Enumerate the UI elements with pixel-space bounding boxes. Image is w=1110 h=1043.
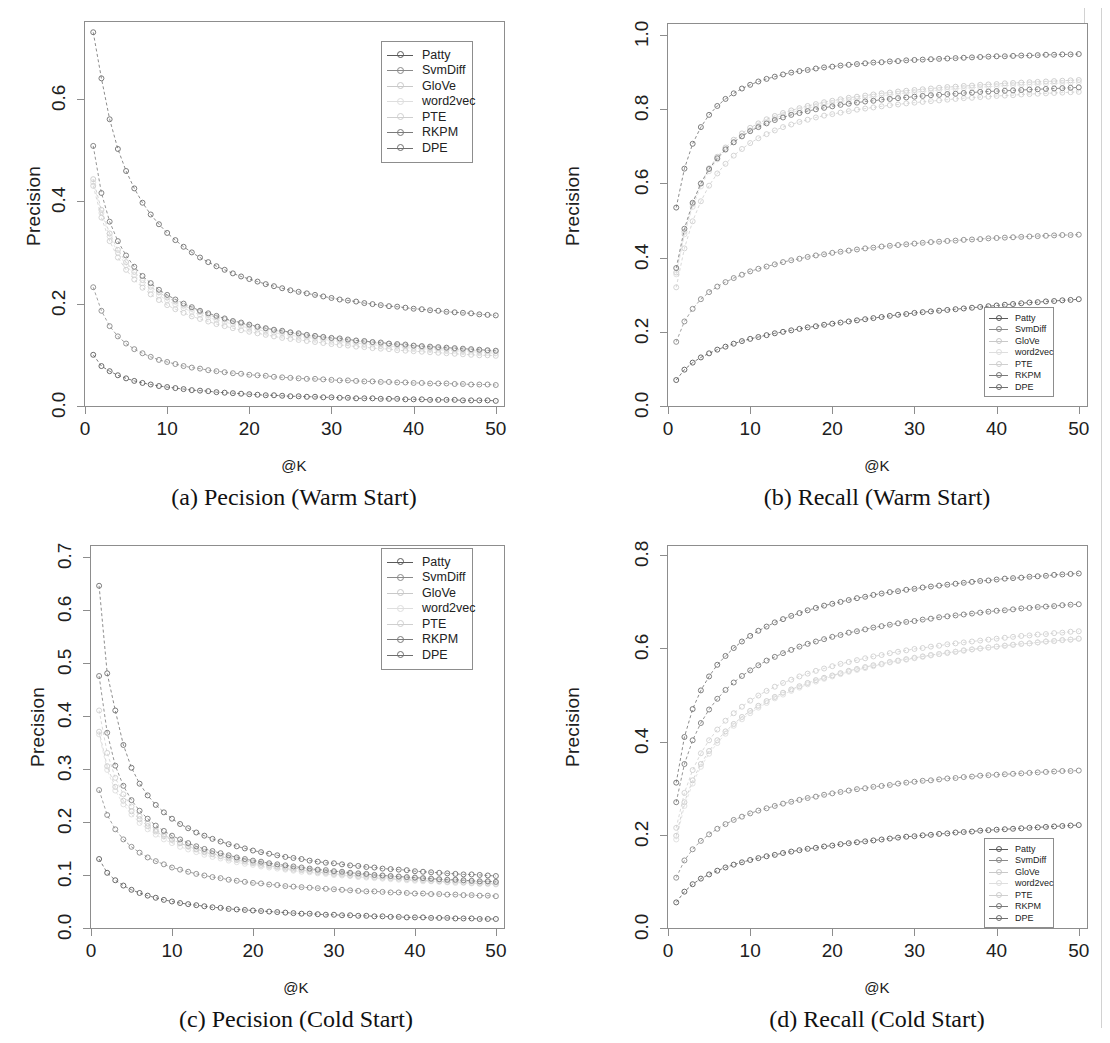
legend-circle-icon: [996, 361, 1002, 367]
legend-marker-icon: [387, 47, 413, 63]
x-tick-mark: [914, 407, 915, 414]
y-tick-mark: [83, 557, 90, 558]
legend-marker-icon: [387, 94, 413, 110]
x-tick-mark: [415, 929, 416, 936]
x-tick-label: 10: [147, 940, 197, 962]
legend-marker-icon: [387, 109, 413, 125]
legend-item[interactable]: RKPM: [989, 901, 1050, 913]
panel-d-legend[interactable]: PattySvmDiffGloVeword2vecPTERKPMDPE: [984, 838, 1054, 928]
legend-label: SvmDiff: [422, 63, 466, 77]
y-tick-mark: [660, 648, 667, 649]
legend-item[interactable]: word2vec: [387, 601, 468, 617]
legend-item[interactable]: PTE: [989, 889, 1050, 901]
legend-item[interactable]: SvmDiff: [387, 570, 468, 586]
x-tick-mark: [91, 929, 92, 936]
y-tick-mark: [660, 406, 667, 407]
legend-label: DPE: [422, 141, 448, 155]
legend-circle-icon: [397, 558, 404, 565]
x-tick-label: 40: [389, 418, 439, 440]
legend-circle-icon: [397, 67, 404, 74]
y-tick-mark: [83, 875, 90, 876]
y-tick-mark: [660, 928, 667, 929]
y-tick-label: 0.4: [48, 189, 70, 213]
panel-d-caption: (d) Recall (Cold Start): [627, 1006, 1110, 1033]
y-tick-mark: [83, 769, 90, 770]
x-tick-mark: [172, 929, 173, 936]
legend-marker-icon: [989, 912, 1008, 924]
legend-label: GloVe: [1015, 336, 1040, 346]
legend-circle-icon: [397, 589, 404, 596]
panel-d-x-axis-title: @K: [827, 979, 927, 996]
y-tick-mark: [83, 928, 90, 929]
legend-circle-icon: [397, 144, 404, 151]
panel-recall-cold-start: Precision 010203040500.00.20.40.60.8 @K …: [555, 521, 1110, 1043]
legend-marker-icon: [387, 63, 413, 79]
panel-c-y-axis-title: Precision: [27, 677, 49, 777]
legend-label: DPE: [422, 648, 448, 662]
y-tick-label: 0.6: [48, 87, 70, 111]
legend-label: PTE: [422, 617, 446, 631]
legend-item[interactable]: RKPM: [989, 370, 1050, 382]
legend-circle-icon: [996, 915, 1002, 921]
legend-item[interactable]: PTE: [387, 109, 468, 125]
panel-a-legend[interactable]: PattySvmDiffGloVeword2vecPTERKPMDPE: [381, 41, 473, 163]
legend-marker-icon: [989, 901, 1008, 913]
legend-item[interactable]: word2vec: [387, 94, 468, 110]
y-tick-mark: [660, 35, 667, 36]
legend-item[interactable]: SvmDiff: [989, 324, 1050, 336]
legend-item[interactable]: SvmDiff: [989, 855, 1050, 867]
legend-circle-icon: [996, 372, 1002, 378]
x-tick-mark: [414, 407, 415, 414]
legend-circle-icon: [397, 129, 404, 136]
legend-item[interactable]: Patty: [989, 312, 1050, 324]
legend-marker-icon: [989, 358, 1008, 370]
y-tick-label: 0.5: [54, 651, 76, 675]
y-tick-mark: [660, 332, 667, 333]
legend-item[interactable]: word2vec: [989, 878, 1050, 890]
y-tick-mark: [77, 99, 84, 100]
legend-item[interactable]: GloVe: [989, 866, 1050, 878]
legend-item[interactable]: DPE: [989, 912, 1050, 924]
legend-marker-icon: [387, 616, 413, 632]
legend-item[interactable]: GloVe: [387, 78, 468, 94]
x-tick-mark: [85, 407, 86, 414]
legend-item[interactable]: RKPM: [387, 632, 468, 648]
legend-item[interactable]: PTE: [387, 616, 468, 632]
legend-item[interactable]: Patty: [989, 843, 1050, 855]
panel-d-y-axis-title: Precision: [562, 677, 584, 777]
panel-c-legend[interactable]: PattySvmDiffGloVeword2vecPTERKPMDPE: [381, 548, 473, 670]
legend-item[interactable]: Patty: [387, 47, 468, 63]
x-tick-mark: [249, 407, 250, 414]
legend-item[interactable]: word2vec: [989, 347, 1050, 359]
x-tick-mark: [997, 407, 998, 414]
legend-item[interactable]: DPE: [387, 647, 468, 663]
legend-label: Patty: [1015, 844, 1036, 854]
legend-item[interactable]: Patty: [387, 554, 468, 570]
x-tick-label: 40: [972, 418, 1022, 440]
legend-label: PTE: [422, 110, 446, 124]
y-tick-mark: [83, 822, 90, 823]
legend-label: SvmDiff: [1015, 855, 1046, 865]
y-tick-label: 0.3: [54, 757, 76, 781]
legend-label: PTE: [1015, 890, 1033, 900]
legend-label: word2vec: [422, 94, 476, 108]
legend-circle-icon: [397, 98, 404, 105]
legend-item[interactable]: PTE: [989, 358, 1050, 370]
y-tick-mark: [77, 406, 84, 407]
y-tick-label: 0.2: [631, 823, 653, 847]
legend-item[interactable]: DPE: [989, 381, 1050, 393]
legend-item[interactable]: DPE: [387, 140, 468, 156]
x-tick-mark: [668, 407, 669, 414]
legend-item[interactable]: GloVe: [989, 335, 1050, 347]
legend-circle-icon: [397, 82, 404, 89]
legend-item[interactable]: SvmDiff: [387, 63, 468, 79]
legend-circle-icon: [996, 892, 1002, 898]
y-tick-mark: [660, 183, 667, 184]
panel-b-legend[interactable]: PattySvmDiffGloVeword2vecPTERKPMDPE: [984, 307, 1054, 397]
x-tick-mark: [334, 929, 335, 936]
legend-marker-icon: [387, 78, 413, 94]
y-tick-mark: [660, 109, 667, 110]
legend-item[interactable]: GloVe: [387, 585, 468, 601]
legend-item[interactable]: RKPM: [387, 125, 468, 141]
legend-marker-icon: [989, 866, 1008, 878]
